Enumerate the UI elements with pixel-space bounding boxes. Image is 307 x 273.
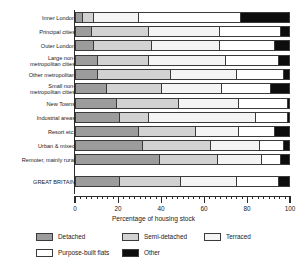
category-label: Remoter, mainly rural — [3, 157, 75, 163]
bar-segment-terraced — [148, 113, 255, 122]
x-tick-major — [161, 196, 162, 203]
legend-swatch-icon — [36, 249, 53, 257]
bar-segment-other — [283, 141, 289, 150]
bar-segment-other — [280, 155, 289, 164]
stacked-bar — [75, 69, 290, 80]
legend-item-other[interactable]: Other — [122, 249, 160, 257]
stacked-bar — [75, 12, 290, 23]
bar-row: Large non- metropolitan cities — [0, 55, 307, 66]
legend-row: Purpose-built flatsOther — [36, 248, 286, 257]
x-tick-label: 60 — [200, 205, 207, 212]
bar-row: Urban & mixed — [0, 140, 307, 151]
x-tick-minor — [236, 196, 237, 199]
bar-segment-other — [283, 70, 289, 79]
x-tick-major — [75, 196, 76, 203]
bar-segment-other — [274, 41, 289, 50]
legend-label: Terraced — [226, 233, 251, 240]
legend-swatch-icon — [36, 233, 53, 241]
bar-segment-purpose-built-flats — [225, 56, 278, 65]
x-tick-major — [118, 196, 119, 203]
x-tick-minor — [258, 196, 259, 199]
stacked-bar — [75, 126, 290, 137]
x-tick-minor — [129, 196, 130, 199]
stacked-bar — [75, 40, 290, 51]
category-label: Small non- metropolitan cities — [3, 83, 75, 95]
category-label: Principal cities — [3, 29, 75, 35]
legend-item-purpose-built-flats[interactable]: Purpose-built flats — [36, 249, 109, 257]
stacked-bar — [75, 140, 290, 151]
x-tick-minor — [123, 196, 124, 199]
legend-item-detached[interactable]: Detached — [36, 233, 85, 241]
bar-segment-purpose-built-flats — [219, 41, 274, 50]
x-tick-major — [247, 196, 248, 203]
legend-item-terraced[interactable]: Terraced — [204, 233, 251, 241]
bar-segment-other — [287, 99, 289, 108]
x-tick-label: 100 — [285, 205, 296, 212]
legend-item-semi-detached[interactable]: Semi-detached — [122, 233, 187, 241]
x-tick-minor — [209, 196, 210, 199]
bar-segment-terraced — [195, 127, 238, 136]
bar-segment-terraced — [210, 141, 259, 150]
x-tick-label: 80 — [243, 205, 250, 212]
x-tick-minor — [188, 196, 189, 199]
bar-segment-other — [240, 13, 289, 22]
bar-segment-purpose-built-flats — [259, 141, 282, 150]
bar-segment-semi-detached — [91, 27, 149, 36]
bar-segment-terraced — [93, 13, 138, 22]
x-tick-minor — [274, 196, 275, 199]
x-tick-label: 40 — [157, 205, 164, 212]
bar-row: Small non- metropolitan cities — [0, 83, 307, 94]
bar-segment-semi-detached — [119, 113, 149, 122]
x-tick-minor — [172, 196, 173, 199]
legend-swatch-icon — [122, 249, 139, 257]
bar-segment-purpose-built-flats — [219, 27, 281, 36]
x-axis-title: Percentage of housing stock — [0, 215, 307, 222]
x-tick-minor — [107, 196, 108, 199]
x-tick-minor — [150, 196, 151, 199]
bar-segment-detached — [76, 113, 119, 122]
bar-segment-purpose-built-flats — [236, 70, 283, 79]
category-label: New Towns — [3, 101, 75, 107]
x-tick-minor — [199, 196, 200, 199]
bar-segment-detached — [76, 99, 116, 108]
x-tick-minor — [220, 196, 221, 199]
x-tick-minor — [97, 196, 98, 199]
bar-segment-semi-detached — [119, 177, 181, 186]
bar-row: Principal cities — [0, 26, 307, 37]
legend-label: Semi-detached — [144, 233, 187, 240]
bar-segment-purpose-built-flats — [236, 177, 279, 186]
bar-segment-other — [287, 113, 289, 122]
bar-segment-purpose-built-flats — [261, 155, 280, 164]
stacked-bar — [75, 26, 290, 37]
x-tick-minor — [285, 196, 286, 199]
x-tick-major — [290, 196, 291, 203]
bar-segment-detached — [76, 56, 97, 65]
x-tick-minor — [215, 196, 216, 199]
bar-row: Other metropolitan — [0, 69, 307, 80]
x-tick-minor — [177, 196, 178, 199]
bar-segment-terraced — [170, 70, 236, 79]
housing-stock-stacked-bar-chart: Inner LondonPrincipal citiesOuter London… — [0, 0, 307, 273]
bar-segment-detached — [76, 155, 159, 164]
bar-segment-purpose-built-flats — [138, 13, 240, 22]
x-tick-label: 0 — [73, 205, 77, 212]
bar-row: New Towns — [0, 98, 307, 109]
bar-segment-purpose-built-flats — [255, 113, 287, 122]
bar-segment-other — [278, 177, 289, 186]
bar-row: Remoter, mainly rural — [0, 154, 307, 165]
category-label: Urban & mixed — [3, 143, 75, 149]
legend-swatch-icon — [122, 233, 139, 241]
bar-segment-other — [274, 127, 289, 136]
bar-segment-detached — [76, 41, 93, 50]
stacked-bar — [75, 112, 290, 123]
legend-label: Detached — [58, 233, 85, 240]
x-tick-major — [204, 196, 205, 203]
x-tick-minor — [145, 196, 146, 199]
x-tick-minor — [113, 196, 114, 199]
stacked-bar — [75, 176, 290, 187]
x-tick-minor — [134, 196, 135, 199]
category-label: Resort etc. — [3, 129, 75, 135]
x-tick-minor — [166, 196, 167, 199]
bar-segment-detached — [76, 141, 142, 150]
x-tick-minor — [193, 196, 194, 199]
